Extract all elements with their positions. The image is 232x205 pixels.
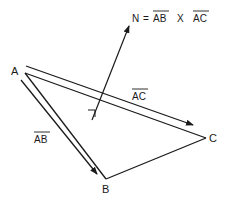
triangle-cross-product-diagram: A B C AC AB N = AB X AC: [0, 0, 232, 205]
vertex-label-b: B: [102, 183, 109, 195]
equation-equals: =: [143, 13, 149, 24]
vertex-label-c: C: [209, 132, 217, 144]
edge-bc: [106, 138, 206, 179]
equation-cross-operator: X: [177, 13, 184, 24]
equation-lhs: N: [132, 13, 139, 24]
equation-term-ab: AB: [153, 13, 167, 24]
vertex-label-a: A: [11, 65, 19, 77]
normal-vector-arrow: [92, 26, 129, 120]
edge-ab: [25, 73, 106, 179]
cross-product-equation: N = AB X AC: [132, 11, 209, 24]
edge-ac: [25, 73, 206, 138]
triangle-abc: [25, 73, 206, 179]
svg-text:AC: AC: [132, 91, 146, 102]
vector-ac-label: AC: [132, 89, 148, 102]
vector-ab-label: AB: [34, 132, 50, 145]
svg-text:AB: AB: [34, 134, 48, 145]
equation-term-ac: AC: [193, 13, 207, 24]
